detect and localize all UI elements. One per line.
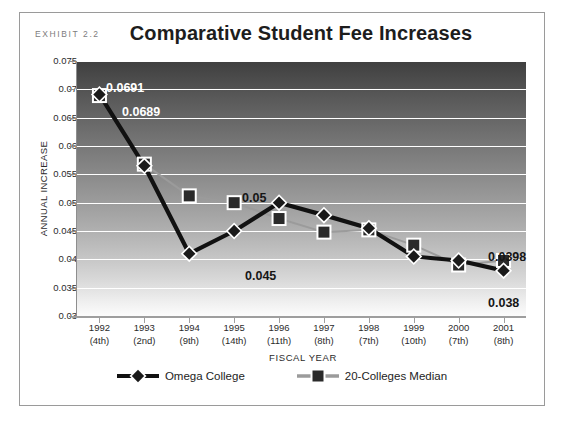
data-point-square bbox=[227, 195, 242, 210]
plot-area bbox=[77, 61, 526, 316]
data-point-square bbox=[272, 211, 287, 226]
x-axis-title: FISCAL YEAR bbox=[20, 352, 544, 363]
x-axis-tick-mark bbox=[459, 318, 460, 323]
x-axis-tick-mark bbox=[99, 318, 100, 323]
series-line bbox=[99, 94, 503, 270]
x-axis-tick-mark bbox=[189, 318, 190, 323]
data-point-diamond bbox=[315, 207, 332, 224]
x-axis-tick-label: 2001(8th) bbox=[474, 321, 534, 347]
y-axis-tick-mark bbox=[69, 174, 75, 175]
legend-swatch-diamond bbox=[117, 368, 159, 384]
data-value-label: 0.038 bbox=[488, 296, 519, 310]
y-axis-tick-mark bbox=[69, 288, 75, 289]
x-axis-tick-mark bbox=[144, 318, 145, 323]
x-axis-tick-mark bbox=[369, 318, 370, 323]
data-point-square bbox=[310, 369, 325, 384]
legend-swatch-square bbox=[297, 368, 339, 384]
series-layer bbox=[77, 61, 526, 316]
x-axis-tick-mark bbox=[234, 318, 235, 323]
data-value-label: 0.0689 bbox=[122, 105, 160, 119]
legend-item-colleges-median[interactable]: 20-Colleges Median bbox=[297, 368, 447, 384]
chart-title: Comparative Student Fee Increases bbox=[20, 22, 544, 45]
series-line bbox=[99, 96, 503, 265]
data-point-diamond bbox=[129, 368, 146, 384]
y-axis-tick-mark bbox=[69, 61, 75, 62]
exhibit-frame: EXHIBIT 2.2 Comparative Student Fee Incr… bbox=[19, 12, 545, 406]
y-axis-tick-mark bbox=[69, 259, 75, 260]
legend-label: 20-Colleges Median bbox=[345, 370, 447, 382]
x-axis-tick-mark bbox=[324, 318, 325, 323]
y-axis-tick-mark bbox=[69, 231, 75, 232]
y-axis-tick-mark bbox=[69, 118, 75, 119]
x-axis-tick-mark bbox=[279, 318, 280, 323]
data-value-label: 0.05 bbox=[242, 191, 266, 205]
data-value-label: 0.0691 bbox=[106, 81, 144, 95]
y-axis-tick-mark bbox=[69, 203, 75, 204]
x-axis-tick-mark bbox=[504, 318, 505, 323]
x-axis-tick-mark bbox=[414, 318, 415, 323]
chart-legend: Omega College20-Colleges Median bbox=[20, 368, 544, 384]
legend-label: Omega College bbox=[165, 370, 245, 382]
data-point-square bbox=[182, 188, 197, 203]
data-point-square bbox=[316, 225, 331, 240]
data-point-diamond bbox=[181, 245, 198, 262]
data-value-label: 0.045 bbox=[245, 269, 276, 283]
legend-item-omega-college[interactable]: Omega College bbox=[117, 368, 245, 384]
y-axis-tick-mark bbox=[69, 89, 75, 90]
y-axis-tick-mark bbox=[69, 146, 75, 147]
data-value-label: 0.0398 bbox=[488, 250, 526, 264]
